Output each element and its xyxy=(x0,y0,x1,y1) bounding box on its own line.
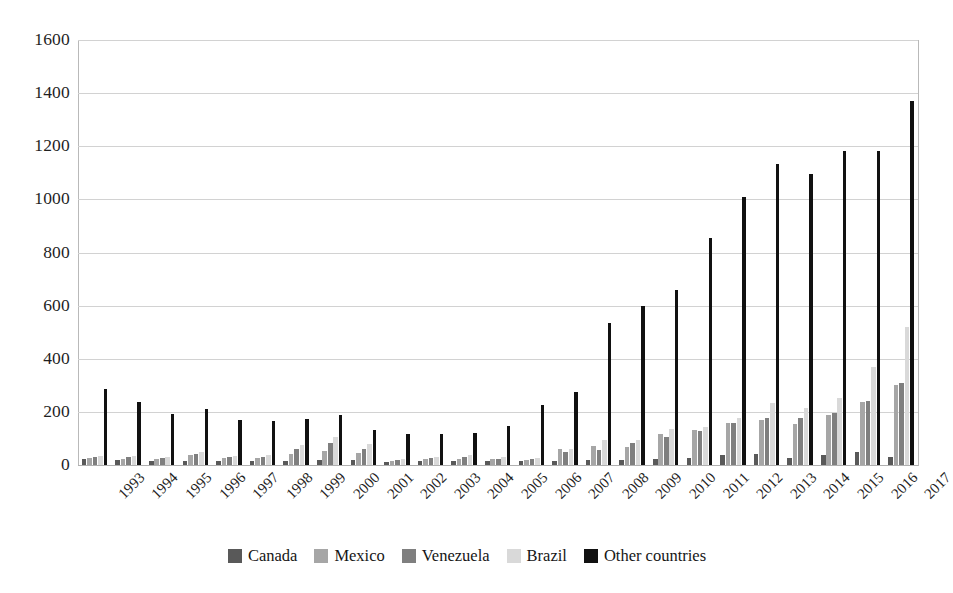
x-axis-tick-label: 1994 xyxy=(149,470,181,502)
bar-other-countries-1994 xyxy=(137,402,140,465)
x-axis-tick-label: 1999 xyxy=(317,470,349,502)
bar-venezuela-2009 xyxy=(630,443,635,465)
bar-brazil-2001 xyxy=(367,444,372,465)
bar-venezuela-2001 xyxy=(362,449,367,465)
legend-item-venezuela[interactable]: Venezuela xyxy=(402,548,490,565)
bar-mexico-2015 xyxy=(826,415,831,465)
bar-other-countries-2015 xyxy=(843,151,846,465)
bar-group-2010 xyxy=(653,40,681,465)
x-axis-tick-label: 2012 xyxy=(754,470,786,502)
bar-mexico-2014 xyxy=(793,424,798,465)
bar-venezuela-1996 xyxy=(194,454,199,465)
bar-brazil-1995 xyxy=(165,457,170,465)
bar-mexico-2012 xyxy=(726,423,731,466)
bar-venezuela-2010 xyxy=(664,437,669,465)
x-axis-tick-label: 2013 xyxy=(788,470,820,502)
x-axis-tick-label: 2004 xyxy=(485,470,517,502)
bar-other-countries-2013 xyxy=(776,164,779,465)
bar-other-countries-2003 xyxy=(440,434,443,465)
bar-group-2015 xyxy=(821,40,849,465)
y-axis-tick-label: 800 xyxy=(6,244,70,262)
bar-venezuela-1998 xyxy=(261,457,266,465)
y-axis: 02004006008001000120014001600 xyxy=(0,0,70,593)
legend-item-other-countries[interactable]: Other countries xyxy=(584,548,706,565)
x-axis-tick-label: 2014 xyxy=(821,470,853,502)
x-axis-tick-label: 2016 xyxy=(888,470,920,502)
x-axis-tick-label: 2010 xyxy=(687,470,719,502)
bar-venezuela-2005 xyxy=(496,459,501,465)
x-axis-tick-label: 1998 xyxy=(284,470,316,502)
bar-group-2004 xyxy=(451,40,479,465)
bar-brazil-1999 xyxy=(300,445,305,465)
bar-brazil-1997 xyxy=(233,456,238,465)
bar-canada-1993 xyxy=(82,459,87,465)
bar-group-2014 xyxy=(787,40,815,465)
bar-brazil-2005 xyxy=(501,457,506,465)
x-axis-tick-label: 2000 xyxy=(351,470,383,502)
bar-canada-2008 xyxy=(586,460,591,465)
bar-mexico-1998 xyxy=(255,458,260,465)
bar-group-1999 xyxy=(283,40,311,465)
bar-group-2011 xyxy=(687,40,715,465)
bar-mexico-2000 xyxy=(322,451,327,465)
bar-group-2013 xyxy=(754,40,782,465)
bar-brazil-2009 xyxy=(636,440,641,466)
bar-venezuela-1994 xyxy=(126,457,131,465)
bar-other-countries-2017 xyxy=(910,101,913,465)
x-axis-tick-label: 1993 xyxy=(116,470,148,502)
bar-brazil-2003 xyxy=(434,457,439,466)
bar-canada-1998 xyxy=(250,461,255,465)
x-axis-tick-label: 2006 xyxy=(552,470,584,502)
bar-venezuela-2003 xyxy=(429,458,434,465)
bar-venezuela-2006 xyxy=(530,459,535,465)
legend-label: Brazil xyxy=(527,548,567,565)
bar-venezuela-1995 xyxy=(160,458,165,465)
bar-venezuela-2004 xyxy=(462,457,467,465)
bar-mexico-2007 xyxy=(558,449,563,465)
bar-group-1995 xyxy=(149,40,177,465)
y-axis-tick-label: 600 xyxy=(6,297,70,315)
bar-group-1998 xyxy=(250,40,278,465)
bar-group-2008 xyxy=(586,40,614,465)
bar-canada-2003 xyxy=(418,461,423,465)
bar-venezuela-1999 xyxy=(294,449,299,465)
bar-venezuela-2016 xyxy=(866,401,871,465)
bar-canada-2013 xyxy=(754,454,759,465)
x-axis-tick-label: 2015 xyxy=(855,470,887,502)
bar-canada-2004 xyxy=(451,461,456,465)
bar-other-countries-2011 xyxy=(709,238,712,465)
bar-canada-1997 xyxy=(216,461,221,465)
bar-other-countries-1995 xyxy=(171,414,174,465)
bar-other-countries-2006 xyxy=(541,405,544,465)
bar-mexico-2011 xyxy=(692,430,697,465)
legend-item-mexico[interactable]: Mexico xyxy=(314,548,384,565)
bar-canada-2014 xyxy=(787,458,792,465)
bar-group-2007 xyxy=(552,40,580,465)
bar-other-countries-2009 xyxy=(641,306,644,465)
y-axis-tick-label: 1600 xyxy=(6,31,70,49)
bar-venezuela-2012 xyxy=(731,423,736,466)
bar-canada-1995 xyxy=(149,461,154,465)
bar-canada-2001 xyxy=(351,460,356,465)
bar-brazil-2013 xyxy=(770,403,775,465)
bar-venezuela-2014 xyxy=(798,418,803,465)
bar-venezuela-2002 xyxy=(395,460,400,465)
bar-brazil-1994 xyxy=(132,456,137,465)
legend-item-brazil[interactable]: Brazil xyxy=(507,548,567,565)
bar-canada-2010 xyxy=(653,459,658,465)
legend-label: Canada xyxy=(248,548,297,565)
x-axis-tick-label: 1996 xyxy=(216,470,248,502)
bar-venezuela-2017 xyxy=(899,383,904,465)
y-axis-tick-label: 1000 xyxy=(6,190,70,208)
x-axis-tick-label: 2009 xyxy=(653,470,685,502)
bar-mexico-2006 xyxy=(524,460,529,465)
bar-other-countries-1999 xyxy=(305,419,308,465)
legend-item-canada[interactable]: Canada xyxy=(228,548,297,565)
bar-canada-1994 xyxy=(115,460,120,465)
bar-venezuela-2008 xyxy=(597,450,602,465)
bar-canada-1999 xyxy=(283,461,288,465)
bar-other-countries-1997 xyxy=(238,420,241,465)
bar-other-countries-1993 xyxy=(104,389,107,465)
bar-canada-2011 xyxy=(687,458,692,465)
bar-mexico-1997 xyxy=(222,458,227,465)
